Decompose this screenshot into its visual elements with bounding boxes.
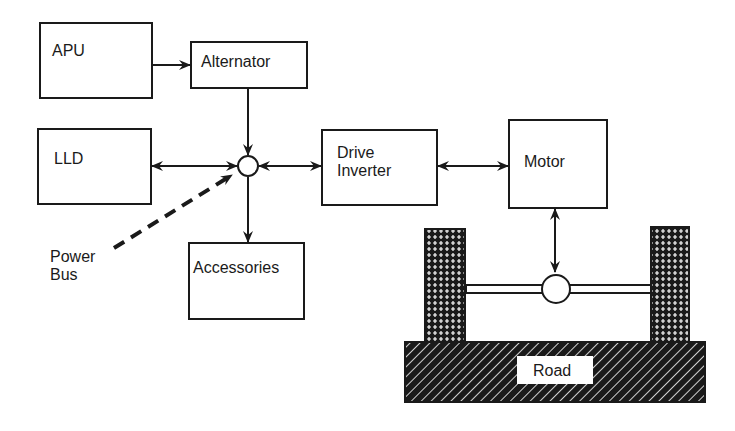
power-bus-node	[238, 156, 258, 176]
lld-block: LLD	[38, 129, 151, 204]
power-bus-label-line1: Power	[50, 248, 96, 265]
apu-block: APU	[40, 23, 152, 98]
road-block: Road	[405, 342, 705, 402]
drive-inverter-label-line1: Drive	[337, 144, 374, 161]
accessories-block: Accessories	[189, 243, 304, 319]
power-bus-label-line2: Bus	[50, 266, 78, 283]
motor-block: Motor	[509, 120, 607, 208]
lld-label: LLD	[54, 150, 83, 167]
right-wheel	[651, 227, 689, 342]
apu-label: APU	[52, 42, 85, 59]
left-wheel	[425, 229, 465, 342]
drive-inverter-label-line2: Inverter	[337, 162, 392, 179]
differential-node	[542, 275, 570, 303]
alternator-label: Alternator	[201, 53, 271, 70]
hybrid-drivetrain-diagram: APU Alternator LLD Accessories Drive Inv…	[0, 0, 735, 431]
drive-inverter-block: Drive Inverter	[322, 130, 437, 205]
road-label: Road	[533, 362, 571, 379]
alternator-block: Alternator	[191, 42, 307, 88]
accessories-label: Accessories	[193, 259, 279, 276]
motor-label: Motor	[524, 153, 566, 170]
